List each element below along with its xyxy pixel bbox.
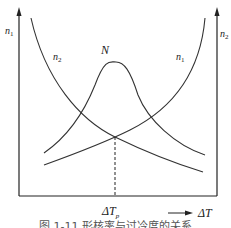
n1-curve-label: n1 <box>176 51 185 64</box>
left-axis-label: n1 <box>5 25 14 38</box>
right-axis-arrow-icon <box>215 7 220 16</box>
figure-caption: 图 1-11 形核率与过冷度的关系 <box>0 220 231 228</box>
diagram-canvas: n1 n2 n2 N n1 ΔTp ΔT <box>0 0 231 228</box>
peak-marker-label: ΔTp <box>101 204 120 220</box>
x-axis-label: ΔT <box>197 206 213 220</box>
n2-curve <box>31 18 203 172</box>
x-axis-arrow-icon <box>185 211 193 216</box>
n2-curve-label: n2 <box>53 51 62 64</box>
right-axis-label: n2 <box>220 28 229 41</box>
N-curve-label: N <box>100 43 110 57</box>
axes <box>19 12 217 196</box>
left-axis-arrow-icon <box>17 7 22 16</box>
